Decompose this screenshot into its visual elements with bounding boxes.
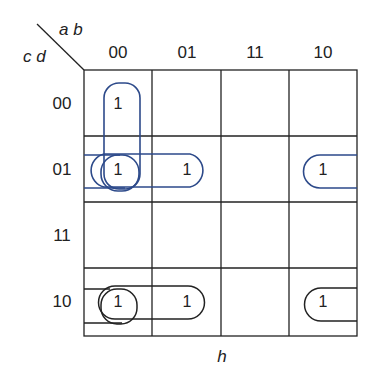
row-label-00: 00 bbox=[53, 94, 72, 113]
cell-01-10: 1 bbox=[319, 161, 328, 178]
col-label-11: 11 bbox=[246, 43, 264, 62]
cell-01-00: 1 bbox=[114, 161, 123, 178]
row-label-11: 11 bbox=[53, 226, 71, 245]
loop-row10-wrap-right bbox=[305, 288, 358, 321]
function-caption: h bbox=[217, 347, 226, 366]
cell-10-00: 1 bbox=[114, 293, 123, 310]
cell-01-01: 1 bbox=[183, 161, 192, 178]
col-label-01: 01 bbox=[178, 43, 197, 62]
col-label-00: 00 bbox=[109, 43, 128, 62]
col-variable-label: a b bbox=[59, 20, 83, 39]
cell-10-10: 1 bbox=[319, 293, 328, 310]
row-variable-label: c d bbox=[23, 47, 46, 66]
cell-00-00: 1 bbox=[114, 95, 123, 112]
loop-row01-wrap-right bbox=[304, 155, 358, 188]
karnaugh-map: a b c d 00 01 11 10 00 01 11 10 1 1 1 1 … bbox=[0, 0, 374, 381]
row-label-10: 10 bbox=[53, 292, 72, 311]
cell-10-01: 1 bbox=[183, 293, 192, 310]
row-label-01: 01 bbox=[53, 160, 72, 179]
col-label-10: 10 bbox=[314, 43, 333, 62]
grid bbox=[84, 70, 357, 336]
